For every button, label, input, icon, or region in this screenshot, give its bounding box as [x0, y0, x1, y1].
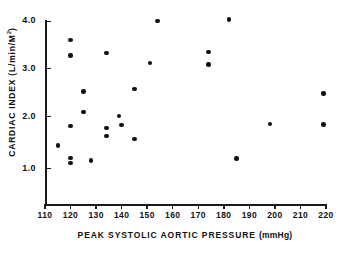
- y-axis-tick-label: 3.0: [10, 63, 36, 73]
- data-point: [89, 158, 93, 162]
- data-point: [56, 143, 60, 147]
- x-axis-tick: [44, 204, 45, 209]
- scatter-plot-figure: CARDIAC INDEX (L/min/M2) 110120130140150…: [0, 0, 349, 254]
- x-axis-tick: [249, 204, 250, 209]
- x-axis-tick: [70, 204, 71, 209]
- x-axis-tick: [300, 204, 301, 209]
- data-point: [132, 137, 136, 141]
- x-axis-tick: [121, 204, 122, 209]
- data-point: [104, 134, 108, 138]
- data-point: [104, 126, 108, 130]
- y-axis-tick: [45, 168, 51, 169]
- x-axis-tick-label: 220: [311, 210, 341, 220]
- data-point: [81, 110, 85, 114]
- y-axis-tick-label: 4.0: [10, 15, 36, 25]
- x-axis-tick: [325, 204, 326, 209]
- data-point: [68, 161, 72, 165]
- x-axis-tick: [146, 204, 147, 209]
- data-point: [268, 122, 272, 126]
- data-point: [227, 17, 231, 21]
- data-point: [68, 53, 72, 57]
- data-point: [155, 19, 159, 23]
- data-point: [206, 50, 210, 54]
- x-axis-tick: [198, 204, 199, 209]
- y-axis-tick: [45, 21, 51, 22]
- data-point: [206, 62, 210, 66]
- data-point: [81, 89, 85, 93]
- x-axis-title-unit: (mmHg): [259, 230, 292, 240]
- y-axis-tick: [45, 116, 51, 117]
- data-point: [68, 124, 72, 128]
- data-point: [117, 114, 121, 118]
- y-axis-tick: [45, 68, 51, 69]
- data-point: [132, 87, 136, 91]
- y-axis-tick-label: 2.0: [10, 111, 36, 121]
- data-point: [68, 156, 72, 160]
- data-point: [68, 38, 72, 42]
- plot-area: 1101201301401501601701801902002102201.02…: [0, 0, 349, 254]
- data-point: [148, 61, 152, 65]
- data-point: [234, 156, 238, 160]
- data-point: [321, 122, 325, 126]
- x-axis-tick: [274, 204, 275, 209]
- x-axis-title-main: PEAK SYSTOLIC AORTIC PRESSURE: [78, 230, 259, 240]
- data-point: [321, 91, 325, 95]
- x-axis-tick: [223, 204, 224, 209]
- y-axis-tick-label: 1.0: [10, 163, 36, 173]
- x-axis-tick: [172, 204, 173, 209]
- x-axis-title: PEAK SYSTOLIC AORTIC PRESSURE (mmHg): [40, 230, 330, 240]
- data-point: [104, 51, 108, 55]
- x-axis-tick: [95, 204, 96, 209]
- data-point: [119, 123, 123, 127]
